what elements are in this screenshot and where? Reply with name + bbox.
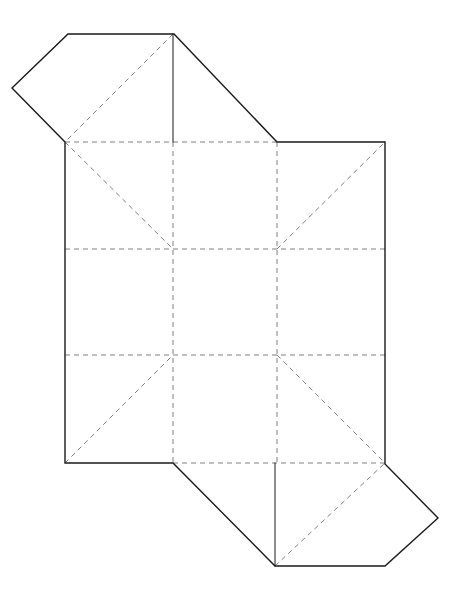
net-diagram-svg (0, 0, 459, 596)
net-diagram-canvas (0, 0, 459, 596)
background-rect (0, 0, 459, 596)
